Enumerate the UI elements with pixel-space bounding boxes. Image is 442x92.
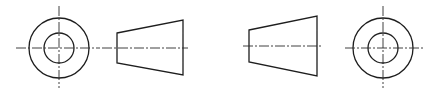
right-end-view — [345, 6, 423, 88]
left-side-view — [102, 20, 188, 75]
left-end-view — [16, 6, 100, 88]
frustum-outline — [117, 20, 183, 75]
technical-drawing — [0, 0, 442, 92]
right-side-view — [243, 16, 323, 76]
